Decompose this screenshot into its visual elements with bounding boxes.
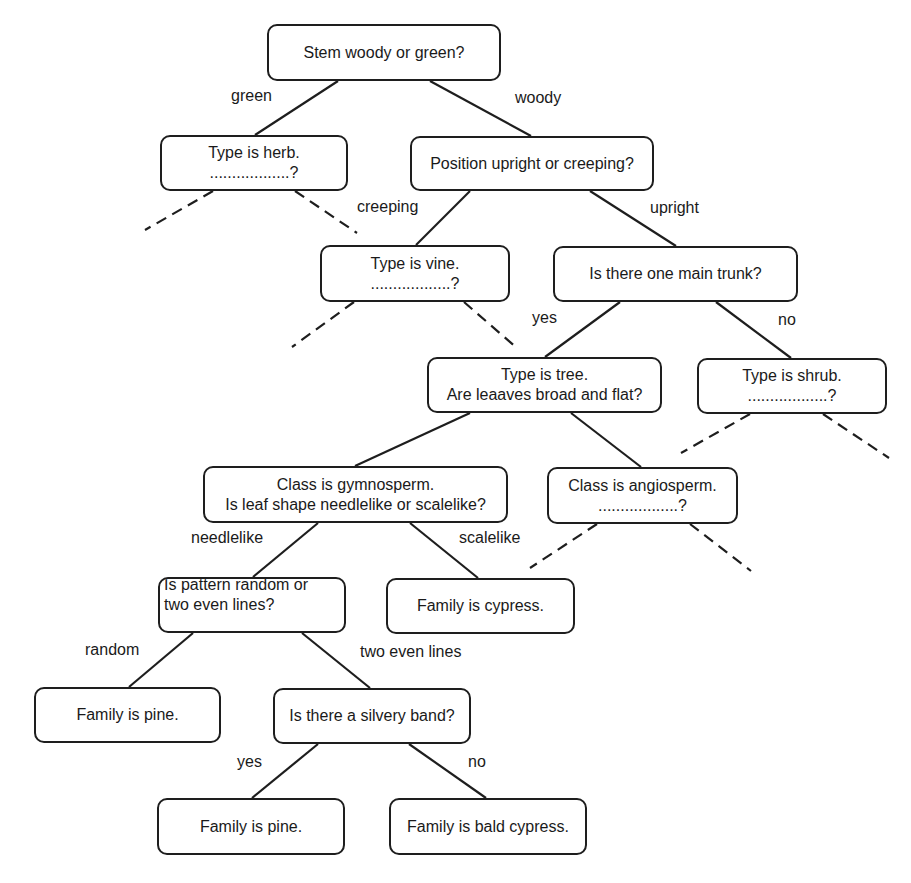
dashed-connector [530,524,597,568]
node-text: Family is pine. [76,705,178,725]
dashed-connector [295,191,357,233]
node-text: Is there one main trunk? [589,264,762,284]
node-baldcypress: Family is bald cypress. [389,798,587,855]
edge-label-green: green [231,87,272,105]
dashed-connector [823,414,889,458]
dashed-connector [681,414,750,453]
node-text: Type is vine. [371,254,460,274]
decision-tree-diagram: Stem woody or green?Type is herb........… [0,0,911,883]
node-gymnosperm: Class is gymnosperm.Is leaf shape needle… [203,466,508,523]
node-angiosperm: Class is angiosperm...................? [547,467,738,524]
node-herb: Type is herb...................? [160,135,348,191]
edge-label-scalelike: scalelike [459,529,520,547]
node-text: two even lines? [164,595,274,615]
node-text: Position upright or creeping? [430,154,634,174]
node-pine2: Family is pine. [157,798,345,855]
node-text: Family is pine. [200,817,302,837]
node-text: Stem woody or green? [304,43,465,63]
edge-label-needlelike: needlelike [191,529,263,547]
node-position: Position upright or creeping? [410,136,654,191]
node-vine: Type is vine...................? [320,245,510,302]
node-text: Is there a silvery band? [289,706,454,726]
edge-label-creeping: creeping [357,198,418,216]
dashed-connector [464,302,518,349]
edge-label-two-even-lines: two even lines [360,643,461,661]
node-text: ..................? [748,386,837,406]
node-cypress: Family is cypress. [386,578,575,634]
node-text: ..................? [210,163,299,183]
node-root: Stem woody or green? [267,24,501,81]
node-text: Type is herb. [208,143,300,163]
edge-layer [0,0,911,883]
node-text: ..................? [371,274,460,294]
node-pine1: Family is pine. [34,687,221,743]
node-text: Family is bald cypress. [407,817,569,837]
node-shrub: Type is shrub...................? [697,358,887,414]
node-pattern: Is pattern random ortwo even lines? [158,577,346,633]
edge-label-random: random [85,641,139,659]
edge-label-no-silvery: no [468,753,486,771]
node-text: Is pattern random or [164,577,308,595]
node-text: Class is angiosperm. [568,476,717,496]
edge-label-yes-silvery: yes [237,753,262,771]
edge-label-yes-trunk: yes [532,309,557,327]
node-text: ..................? [598,496,687,516]
node-text: Family is cypress. [417,596,544,616]
node-text: Type is tree. [501,365,588,385]
connector-line [416,191,470,245]
edge-label-no-trunk: no [778,311,796,329]
node-trunk: Is there one main trunk? [553,246,798,302]
node-tree: Type is tree.Are leaaves broad and flat? [427,357,662,413]
node-text: Type is shrub. [742,366,842,386]
connector-line [571,413,641,467]
node-text: Are leaaves broad and flat? [447,385,643,405]
dashed-connector [292,302,354,347]
dashed-connector [690,524,751,571]
dashed-connector [145,191,213,230]
connector-line [355,413,470,466]
edge-label-upright: upright [650,199,699,217]
edge-label-woody: woody [515,89,561,107]
node-silvery: Is there a silvery band? [273,688,471,744]
node-text: Is leaf shape needlelike or scalelike? [225,495,486,515]
node-text: Class is gymnosperm. [277,475,434,495]
